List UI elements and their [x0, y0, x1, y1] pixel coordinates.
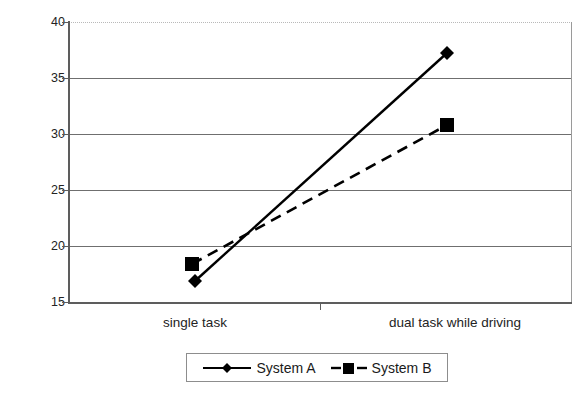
legend-entry-system-b[interactable]: System B: [330, 354, 432, 381]
x-axis-tick-mid: [320, 303, 321, 310]
y-tick-label-25: 25: [35, 184, 65, 197]
chart-legend: System A System B: [186, 353, 448, 382]
y-axis-title: task duration (s): [8, 0, 34, 40]
y-tick-label-30: 30: [35, 128, 65, 141]
gridline-40: [69, 22, 572, 23]
x-category-label-dual-task: dual task while driving: [355, 315, 555, 330]
line-chart: task duration (s) 40 35 30 25 20 15: [0, 0, 583, 400]
gridline-35: [69, 78, 572, 79]
legend-label-system-a: System A: [256, 360, 315, 376]
y-axis-tick-15: [62, 302, 69, 303]
plot-right-border: [571, 22, 572, 303]
legend-label-system-b: System B: [372, 360, 432, 376]
plot-area: [69, 22, 572, 302]
legend-swatch-system-b: [330, 361, 368, 375]
y-axis-tick-35: [62, 78, 69, 79]
y-axis-tick-labels: 40 35 30 25 20 15: [34, 0, 65, 330]
gridline-30: [69, 134, 572, 135]
y-axis-line: [68, 21, 70, 304]
legend-swatch-system-a: [202, 361, 252, 375]
y-tick-label-20: 20: [35, 240, 65, 253]
y-axis-tick-25: [62, 190, 69, 191]
y-tick-label-40: 40: [35, 16, 65, 29]
y-tick-label-35: 35: [35, 72, 65, 85]
y-axis-tick-40: [62, 22, 69, 23]
gridline-20: [69, 246, 572, 247]
gridline-25: [69, 190, 572, 191]
y-tick-label-15: 15: [35, 296, 65, 309]
y-axis-tick-30: [62, 134, 69, 135]
y-axis-title-container: task duration (s): [6, 14, 32, 306]
x-category-label-single-task: single task: [130, 315, 260, 330]
legend-entry-system-a[interactable]: System A: [202, 354, 315, 381]
y-axis-tick-20: [62, 246, 69, 247]
